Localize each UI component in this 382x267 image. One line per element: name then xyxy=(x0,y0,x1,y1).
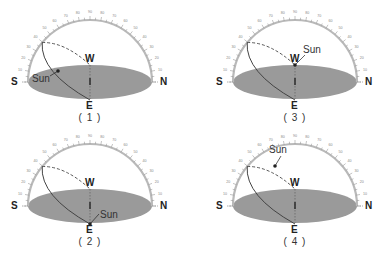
svg-text:60: 60 xyxy=(53,19,57,23)
svg-text:50: 50 xyxy=(134,26,138,30)
panel-caption: ( 1 ) xyxy=(70,112,110,123)
sphere-panel-4: 1020304050607080908070605040302010 SNWES… xyxy=(191,133,382,266)
svg-text:80: 80 xyxy=(305,135,309,139)
panel-caption: ( 2 ) xyxy=(70,236,110,247)
svg-text:20: 20 xyxy=(21,56,25,60)
svg-text:40: 40 xyxy=(34,159,38,163)
svg-text:40: 40 xyxy=(239,35,243,39)
south-label: S xyxy=(11,200,18,211)
svg-text:50: 50 xyxy=(134,150,138,154)
west-label: W xyxy=(85,177,94,188)
svg-text:30: 30 xyxy=(232,45,236,49)
svg-text:10: 10 xyxy=(18,192,22,196)
sun-label: Sun xyxy=(32,73,50,84)
svg-text:40: 40 xyxy=(239,159,243,163)
svg-text:10: 10 xyxy=(363,192,367,196)
svg-text:10: 10 xyxy=(223,68,227,72)
svg-text:50: 50 xyxy=(339,26,343,30)
svg-text:70: 70 xyxy=(317,138,321,142)
svg-text:70: 70 xyxy=(269,138,273,142)
svg-text:40: 40 xyxy=(142,159,146,163)
svg-text:40: 40 xyxy=(347,159,351,163)
west-label: W xyxy=(85,53,94,64)
sphere-panel-1: 1020304050607080908070605040302010 SNWES… xyxy=(0,0,191,133)
svg-text:60: 60 xyxy=(124,19,128,23)
svg-text:70: 70 xyxy=(64,14,68,18)
svg-text:60: 60 xyxy=(53,143,57,147)
svg-text:30: 30 xyxy=(232,169,236,173)
svg-text:70: 70 xyxy=(64,138,68,142)
west-label: W xyxy=(290,177,299,188)
svg-text:40: 40 xyxy=(34,35,38,39)
east-label: E xyxy=(86,224,93,235)
svg-text:60: 60 xyxy=(124,143,128,147)
svg-text:20: 20 xyxy=(360,56,364,60)
north-label: N xyxy=(160,200,167,211)
svg-text:20: 20 xyxy=(155,180,159,184)
svg-text:40: 40 xyxy=(347,35,351,39)
svg-text:80: 80 xyxy=(76,11,80,15)
north-label: N xyxy=(365,200,372,211)
east-label: E xyxy=(291,100,298,111)
svg-text:60: 60 xyxy=(258,143,262,147)
panel-caption: ( 3 ) xyxy=(275,112,315,123)
svg-text:60: 60 xyxy=(329,143,333,147)
svg-text:50: 50 xyxy=(42,150,46,154)
svg-text:80: 80 xyxy=(281,11,285,15)
svg-text:60: 60 xyxy=(329,19,333,23)
svg-text:90: 90 xyxy=(293,134,297,138)
sun-label: Sun xyxy=(303,44,321,55)
east-label: E xyxy=(291,224,298,235)
svg-text:20: 20 xyxy=(360,180,364,184)
sphere-panel-2: 1020304050607080908070605040302010 SNWES… xyxy=(0,133,191,266)
south-label: S xyxy=(216,200,223,211)
svg-text:90: 90 xyxy=(88,134,92,138)
sun-label: Sun xyxy=(269,144,287,155)
north-label: N xyxy=(160,76,167,87)
svg-text:30: 30 xyxy=(355,169,359,173)
svg-text:80: 80 xyxy=(76,135,80,139)
svg-text:30: 30 xyxy=(150,169,154,173)
svg-text:90: 90 xyxy=(293,10,297,14)
west-label: W xyxy=(290,53,299,64)
svg-text:70: 70 xyxy=(112,14,116,18)
svg-text:20: 20 xyxy=(21,180,25,184)
svg-text:50: 50 xyxy=(339,150,343,154)
east-label: E xyxy=(86,100,93,111)
svg-text:10: 10 xyxy=(158,68,162,72)
sphere-panel-3: 1020304050607080908070605040302010 SNWES… xyxy=(191,0,382,133)
svg-text:30: 30 xyxy=(27,169,31,173)
svg-text:80: 80 xyxy=(100,135,104,139)
panel-caption: ( 4 ) xyxy=(275,236,315,247)
svg-text:60: 60 xyxy=(258,19,262,23)
svg-text:50: 50 xyxy=(42,26,46,30)
south-label: S xyxy=(216,76,223,87)
svg-text:30: 30 xyxy=(150,45,154,49)
svg-text:20: 20 xyxy=(226,180,230,184)
svg-text:80: 80 xyxy=(305,11,309,15)
svg-text:30: 30 xyxy=(27,45,31,49)
svg-text:80: 80 xyxy=(281,135,285,139)
svg-text:10: 10 xyxy=(363,68,367,72)
svg-text:70: 70 xyxy=(317,14,321,18)
north-label: N xyxy=(365,76,372,87)
svg-text:20: 20 xyxy=(155,56,159,60)
svg-text:70: 70 xyxy=(112,138,116,142)
svg-text:90: 90 xyxy=(88,10,92,14)
svg-text:10: 10 xyxy=(223,192,227,196)
svg-text:10: 10 xyxy=(18,68,22,72)
sun-label: Sun xyxy=(100,209,118,220)
svg-text:40: 40 xyxy=(142,35,146,39)
svg-text:80: 80 xyxy=(100,11,104,15)
svg-text:10: 10 xyxy=(158,192,162,196)
svg-text:70: 70 xyxy=(269,14,273,18)
svg-text:30: 30 xyxy=(355,45,359,49)
svg-text:20: 20 xyxy=(226,56,230,60)
svg-text:50: 50 xyxy=(247,26,251,30)
south-label: S xyxy=(11,76,18,87)
svg-text:50: 50 xyxy=(247,150,251,154)
